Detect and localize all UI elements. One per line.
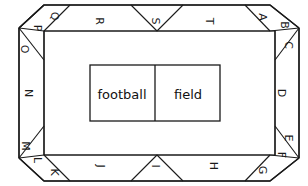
section-label-s[interactable]: S [150, 18, 161, 25]
section-label-a[interactable]: A [257, 13, 268, 21]
section-label-t[interactable]: T [204, 18, 215, 25]
stadium-seating-diagram: A B C D E F G H I J K L M N O P Q R S T … [0, 0, 308, 186]
section-label-j[interactable]: J [95, 164, 106, 167]
section-label-c[interactable]: C [283, 41, 294, 49]
section-label-k[interactable]: K [49, 168, 60, 175]
section-label-r[interactable]: R [94, 17, 105, 25]
section-label-n[interactable]: N [23, 89, 34, 97]
section-label-l[interactable]: L [32, 157, 43, 163]
section-label-g[interactable]: G [257, 166, 268, 175]
section-label-h[interactable]: H [208, 162, 219, 170]
section-label-q[interactable]: Q [49, 12, 60, 21]
section-label-b[interactable]: B [279, 21, 290, 29]
section-label-o[interactable]: O [19, 45, 30, 54]
section-label-i[interactable]: I [150, 164, 161, 167]
field-label-field: field [174, 88, 202, 101]
section-label-e[interactable]: E [283, 135, 294, 142]
section-label-d[interactable]: D [276, 89, 287, 97]
section-label-p[interactable]: P [32, 25, 43, 32]
field-label-football: football [97, 88, 146, 101]
section-label-m[interactable]: M [20, 141, 31, 151]
section-label-f[interactable]: F [276, 152, 287, 158]
diagram-canvas [0, 0, 308, 186]
